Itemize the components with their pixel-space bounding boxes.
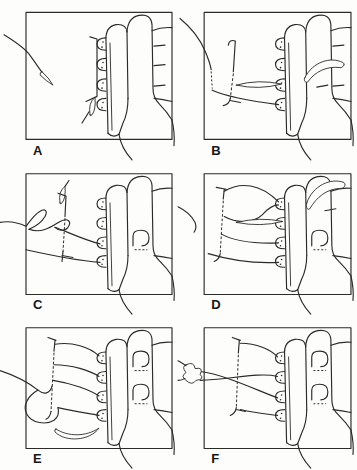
panel-label: E — [33, 451, 42, 466]
tissue-edge — [46, 337, 56, 419]
panel-d: D — [178, 162, 357, 316]
suture-thread — [4, 35, 53, 85]
tissue-edge-bracket — [86, 37, 97, 102]
tissue-edge — [223, 41, 240, 106]
suture-strands — [200, 343, 277, 415]
panel-c-illustration: C — [0, 162, 178, 316]
curved-needle — [55, 428, 99, 439]
curled-suture-end — [306, 181, 345, 211]
panel-label: C — [33, 297, 42, 312]
panel-label: B — [211, 143, 220, 158]
suture-loop — [25, 390, 58, 423]
panel-f: F — [178, 316, 357, 470]
panel-a: A — [0, 0, 178, 162]
panel-label: D — [211, 297, 220, 312]
panel-e: E — [0, 316, 178, 470]
panel-b-illustration: B — [178, 0, 357, 162]
curled-suture-end — [304, 60, 344, 87]
panel-c: C — [0, 162, 178, 316]
needle-tip — [40, 72, 53, 85]
straight-needle — [236, 82, 281, 88]
panel-b: B — [178, 0, 357, 162]
suture-thread — [180, 18, 279, 104]
panel-a-illustration: A — [0, 0, 178, 162]
detached-needle — [82, 97, 95, 123]
panel-d-illustration: D — [178, 162, 357, 316]
panel-label: F — [211, 451, 219, 466]
panel-label: A — [33, 143, 43, 158]
suture-knot — [178, 361, 202, 383]
tissue-edge — [214, 187, 226, 261]
panel-f-illustration: F — [178, 316, 357, 470]
suture-strands — [0, 344, 99, 423]
suture-thread — [0, 210, 100, 263]
figure-plate: A B — [0, 0, 357, 470]
panel-e-illustration: E — [0, 316, 178, 470]
small-needle — [60, 181, 69, 204]
